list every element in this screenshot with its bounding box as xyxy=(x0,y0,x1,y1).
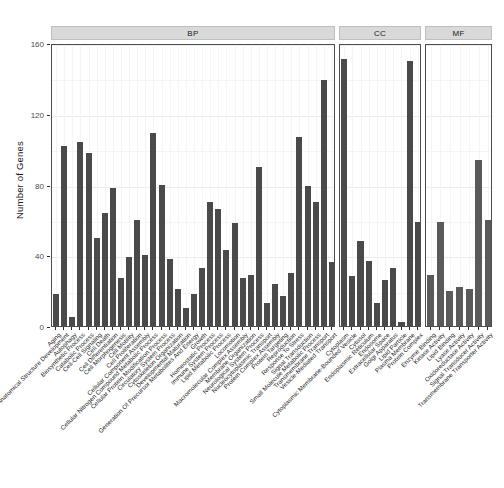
gridline-vertical xyxy=(283,45,284,326)
gridline-horizontal-minor xyxy=(426,151,491,152)
gridline-vertical xyxy=(72,45,73,326)
bar xyxy=(61,146,67,326)
x-tick-mark xyxy=(242,327,243,330)
bar xyxy=(94,238,100,326)
y-tick-label: 160 xyxy=(18,40,44,49)
x-tick-mark xyxy=(343,327,344,330)
bar xyxy=(256,167,262,326)
x-tick-mark xyxy=(161,327,162,330)
bar xyxy=(374,303,380,326)
gridline-horizontal-minor xyxy=(426,80,491,81)
x-tick-mark xyxy=(368,327,369,330)
x-tick-mark xyxy=(266,327,267,330)
panel-header-label: MF xyxy=(452,29,464,38)
bar xyxy=(456,287,463,326)
panel-header-mf: MF xyxy=(425,26,492,40)
bar xyxy=(398,322,404,326)
bar xyxy=(215,209,221,326)
bar xyxy=(167,259,173,326)
bar xyxy=(329,262,335,326)
x-tick-mark xyxy=(217,327,218,330)
x-tick-mark xyxy=(63,327,64,330)
x-tick-mark xyxy=(55,327,56,330)
x-tick-mark xyxy=(323,327,324,330)
x-tick-mark xyxy=(384,327,385,330)
gene-ontology-bar-chart: Number of Genes 04080120160 BPCCMF Aging… xyxy=(0,0,504,488)
x-tick-mark xyxy=(79,327,80,330)
y-tick-mark xyxy=(47,327,50,328)
bar xyxy=(437,222,444,326)
x-tick-mark xyxy=(274,327,275,330)
panel-header-cc: CC xyxy=(339,26,421,40)
x-tick-mark xyxy=(136,327,137,330)
x-tick-mark xyxy=(169,327,170,330)
bar xyxy=(102,213,108,326)
bar xyxy=(175,289,181,326)
panel-plot-area xyxy=(426,45,491,326)
x-tick-mark xyxy=(193,327,194,330)
x-tick-mark xyxy=(417,327,418,330)
bar xyxy=(321,80,327,326)
gridline-vertical xyxy=(267,45,268,326)
bar xyxy=(248,275,254,326)
x-tick-mark xyxy=(331,327,332,330)
bar xyxy=(382,280,388,326)
x-tick-mark xyxy=(376,327,377,330)
bar xyxy=(134,220,140,326)
bar xyxy=(296,137,302,326)
gridline-vertical xyxy=(377,45,378,326)
x-tick-mark xyxy=(201,327,202,330)
x-tick-mark xyxy=(468,327,469,330)
gridline-vertical xyxy=(56,45,57,326)
x-tick-mark xyxy=(258,327,259,330)
panel-header-label: CC xyxy=(374,29,386,38)
x-tick-mark xyxy=(71,327,72,330)
gridline-vertical xyxy=(401,45,402,326)
bar xyxy=(199,268,205,326)
x-tick-mark xyxy=(96,327,97,330)
bar xyxy=(415,222,421,326)
bar xyxy=(142,255,148,326)
x-tick-mark xyxy=(225,327,226,330)
bar xyxy=(191,294,197,326)
x-tick-mark xyxy=(112,327,113,330)
y-tick-mark xyxy=(47,115,50,116)
x-tick-mark xyxy=(392,327,393,330)
bar xyxy=(366,261,372,326)
x-tick-mark xyxy=(360,327,361,330)
x-tick-mark xyxy=(449,327,450,330)
bar xyxy=(53,294,59,326)
y-tick-label: 80 xyxy=(18,181,44,190)
gridline-vertical xyxy=(460,45,461,326)
y-tick-label: 120 xyxy=(18,110,44,119)
bar xyxy=(427,275,434,326)
bar xyxy=(280,296,286,326)
bar xyxy=(69,317,75,326)
x-tick-mark xyxy=(298,327,299,330)
bar xyxy=(232,223,238,326)
bar xyxy=(313,202,319,326)
x-tick-mark xyxy=(144,327,145,330)
x-tick-mark xyxy=(128,327,129,330)
y-axis-title: Number of Genes xyxy=(14,35,32,325)
bar xyxy=(150,133,156,326)
x-tick-mark xyxy=(409,327,410,330)
gridline-vertical xyxy=(450,45,451,326)
x-tick-mark xyxy=(459,327,460,330)
bar xyxy=(207,202,213,326)
x-tick-mark xyxy=(307,327,308,330)
bar xyxy=(288,273,294,326)
bar xyxy=(77,142,83,326)
x-tick-mark xyxy=(104,327,105,330)
x-tick-mark xyxy=(177,327,178,330)
gridline-vertical xyxy=(194,45,195,326)
panel-bp xyxy=(51,44,335,327)
panel-header-label: BP xyxy=(187,29,198,38)
x-tick-mark xyxy=(185,327,186,330)
y-tick-mark xyxy=(47,256,50,257)
x-tick-mark xyxy=(88,327,89,330)
bar xyxy=(126,257,132,326)
bar xyxy=(159,185,165,327)
bar xyxy=(305,186,311,326)
bar xyxy=(223,250,229,326)
